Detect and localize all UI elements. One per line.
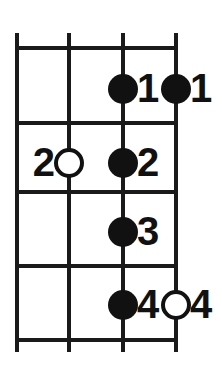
fingering-marker-layer: 1122344 bbox=[0, 0, 222, 375]
filled-finger-marker[interactable] bbox=[161, 74, 191, 104]
filled-finger-marker[interactable] bbox=[108, 148, 138, 178]
finger-number-label: 3 bbox=[137, 211, 171, 251]
filled-finger-marker[interactable] bbox=[108, 290, 138, 320]
finger-number-label: 2 bbox=[24, 142, 54, 182]
fretboard-diagram: 1122344 bbox=[0, 0, 222, 375]
finger-number-label: 4 bbox=[190, 284, 222, 324]
open-finger-marker[interactable] bbox=[54, 148, 84, 178]
filled-finger-marker[interactable] bbox=[108, 217, 138, 247]
filled-finger-marker[interactable] bbox=[108, 74, 138, 104]
finger-number-label: 2 bbox=[137, 142, 171, 182]
finger-number-label: 1 bbox=[190, 68, 222, 108]
open-finger-marker[interactable] bbox=[161, 290, 191, 320]
